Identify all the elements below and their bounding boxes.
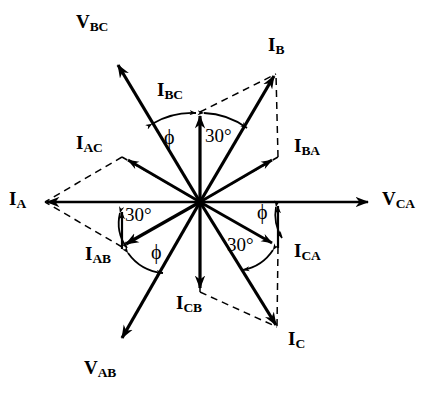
angle-label-phi-right: ϕ bbox=[257, 202, 268, 222]
dash-ica-to-ic bbox=[277, 247, 278, 327]
label-vab: VAB bbox=[84, 358, 116, 379]
dash-iab-to-ia bbox=[45, 202, 122, 247]
angle-label-phi-left: ϕ bbox=[151, 242, 162, 262]
label-ic: IC bbox=[288, 329, 305, 350]
label-vab-sub: AB bbox=[98, 365, 116, 380]
label-ica: ICA bbox=[294, 241, 321, 262]
label-iba-sub: BA bbox=[301, 143, 319, 158]
label-vca: VCA bbox=[382, 189, 415, 210]
line-current-phasors-group bbox=[47, 76, 276, 325]
label-ia-sub: A bbox=[16, 196, 26, 211]
dash-iba-to-ib bbox=[276, 74, 278, 157]
label-iab-sub: AB bbox=[92, 251, 110, 266]
label-icb-sub: CB bbox=[183, 300, 201, 315]
label-iac: IAC bbox=[76, 133, 103, 154]
label-iab: IAB bbox=[85, 244, 111, 265]
dash-iac-to-ia bbox=[45, 157, 122, 202]
label-ibc-sub: BC bbox=[164, 87, 182, 102]
angle-label-phi-top: ϕ bbox=[164, 127, 175, 147]
label-vca-sub: CA bbox=[396, 196, 415, 211]
label-iac-sub: AC bbox=[83, 140, 102, 155]
label-icb: ICB bbox=[176, 293, 202, 314]
phasor-diagram: VBC VCA VAB IA IB IC IBC IAB ICA IBA IAC… bbox=[0, 0, 443, 398]
angle-label-thirty-right: 30° bbox=[227, 235, 254, 254]
angle-label-thirty-left: 30° bbox=[125, 205, 152, 224]
angle-label-thirty-top: 30° bbox=[205, 126, 232, 145]
construction-lines-group bbox=[45, 74, 278, 327]
label-vbc-main: V bbox=[76, 11, 90, 32]
label-vbc: VBC bbox=[76, 12, 108, 33]
label-ic-sub: C bbox=[295, 336, 305, 351]
label-ica-sub: CA bbox=[301, 248, 320, 263]
label-vbc-sub: BC bbox=[90, 19, 108, 34]
label-ibc: IBC bbox=[157, 80, 183, 101]
label-iba: IBA bbox=[294, 136, 320, 157]
phasor-canvas bbox=[0, 0, 443, 398]
label-ib-sub: B bbox=[275, 42, 284, 57]
arc-phi-top bbox=[152, 113, 196, 124]
label-ia: IA bbox=[9, 189, 26, 210]
label-vca-main: V bbox=[382, 188, 396, 209]
label-vab-main: V bbox=[84, 357, 98, 378]
label-ib: IB bbox=[268, 35, 284, 56]
